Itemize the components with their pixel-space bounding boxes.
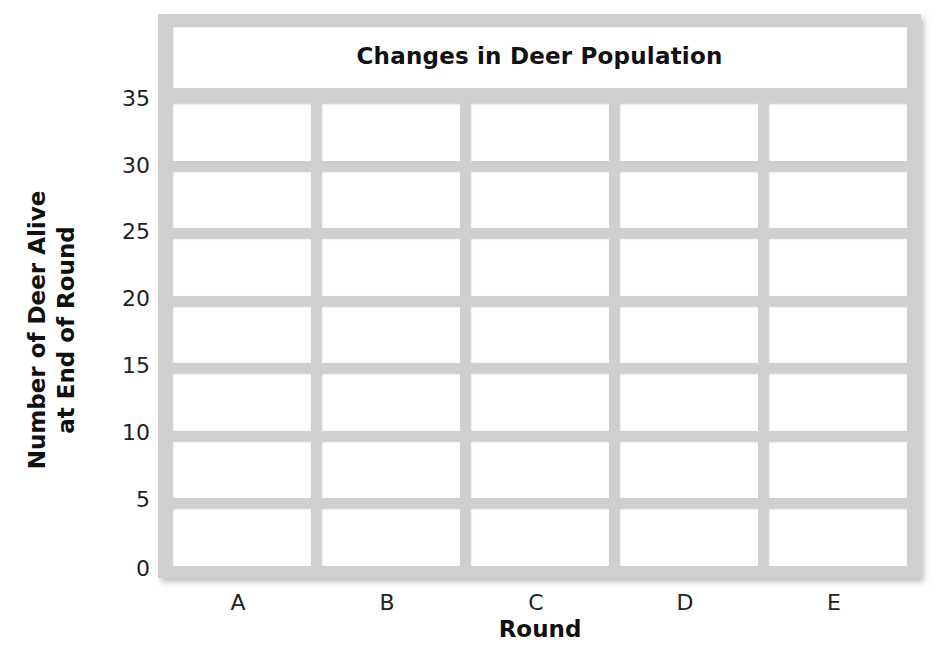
grid-cell (470, 373, 609, 431)
chart-title-box: Changes in Deer Population (172, 26, 907, 88)
grid-cell (768, 373, 907, 431)
grid-cell (172, 171, 311, 229)
grid-cell (321, 508, 460, 566)
grid-cell (619, 508, 758, 566)
grid-cell (768, 103, 907, 161)
x-tick: E (814, 590, 854, 615)
grid-cell (172, 306, 311, 364)
grid-cell (172, 103, 311, 161)
grid-cell (470, 508, 609, 566)
x-tick: A (218, 590, 258, 615)
grid-cell (172, 441, 311, 499)
grid-cell (619, 238, 758, 296)
grid-cell (470, 171, 609, 229)
chart-title: Changes in Deer Population (172, 43, 907, 69)
y-axis-label: Number of Deer Alive at End of Round (22, 140, 82, 520)
grid-cell (619, 306, 758, 364)
grid-cell (619, 373, 758, 431)
grid-cell (470, 441, 609, 499)
grid-cell (172, 373, 311, 431)
grid-cell (321, 103, 460, 161)
grid-cell (768, 171, 907, 229)
grid-cell (470, 306, 609, 364)
grid-cell (768, 508, 907, 566)
grid-cell (172, 508, 311, 566)
grid-cell (470, 103, 609, 161)
y-tick: 0 (100, 556, 150, 581)
grid-cell (321, 441, 460, 499)
y-tick: 35 (100, 86, 150, 111)
y-tick: 15 (100, 353, 150, 378)
y-tick: 10 (100, 420, 150, 445)
y-tick: 25 (100, 219, 150, 244)
grid-cell (768, 441, 907, 499)
grid-cell (768, 238, 907, 296)
x-tick: C (516, 590, 556, 615)
grid-cell (321, 238, 460, 296)
grid-cell (321, 306, 460, 364)
y-axis-label-line: Number of Deer Alive (23, 140, 52, 520)
grid-cell (470, 238, 609, 296)
x-tick: D (665, 590, 705, 615)
x-tick: B (367, 590, 407, 615)
x-axis-label: Round (480, 616, 600, 642)
grid-cell (619, 441, 758, 499)
y-tick: 5 (100, 487, 150, 512)
grid-cell (321, 373, 460, 431)
y-axis-label-line: at End of Round (52, 140, 81, 520)
grid-cell (321, 171, 460, 229)
grid-cell (619, 171, 758, 229)
grid-cell (768, 306, 907, 364)
grid-cell (619, 103, 758, 161)
y-tick: 20 (100, 286, 150, 311)
grid-cell (172, 238, 311, 296)
y-tick: 30 (100, 153, 150, 178)
